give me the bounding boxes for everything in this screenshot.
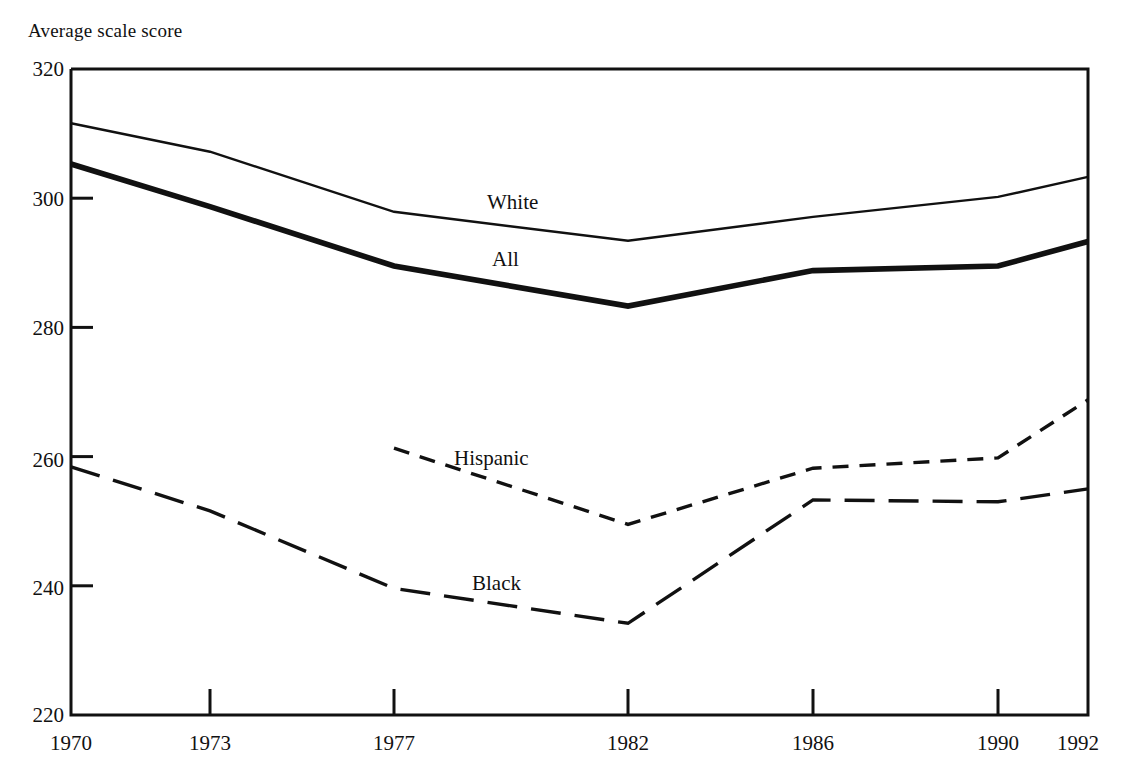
y-axis-ticks bbox=[71, 198, 93, 586]
series-line-black bbox=[71, 467, 1088, 623]
chart-page: Average scale score 320 300 280 260 240 … bbox=[0, 0, 1123, 766]
x-axis-ticks bbox=[210, 689, 998, 715]
series-line-hispanic bbox=[394, 400, 1088, 525]
series-line-white bbox=[71, 123, 1088, 241]
chart-plot-area bbox=[0, 0, 1123, 766]
axis-lines bbox=[71, 69, 1088, 715]
